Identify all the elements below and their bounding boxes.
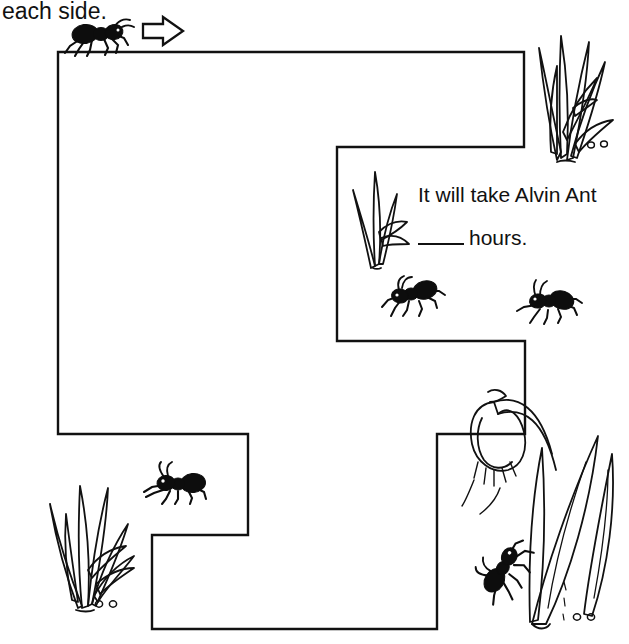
question-line-1: It will take Alvin Ant (418, 183, 597, 207)
grass-tuft-bottom-left (36, 458, 140, 616)
ant-mid-right (514, 279, 584, 325)
direction-arrow-right (140, 14, 186, 48)
ant-flower-climb (480, 538, 556, 624)
question-line-2: hours. (418, 226, 527, 250)
grass-sprig-middle (345, 168, 417, 270)
answer-blank-input[interactable] (418, 226, 464, 245)
pebble-pair-top-right (586, 138, 612, 152)
pebble-pair-bottom-left (93, 596, 121, 612)
ant-mid-left (379, 274, 449, 318)
worksheet-page: each side. It (0, 0, 629, 644)
question-line-2-suffix: hours. (469, 226, 527, 249)
ant-lower-left (140, 461, 212, 505)
pebble-pair-bottom-right (571, 609, 599, 625)
